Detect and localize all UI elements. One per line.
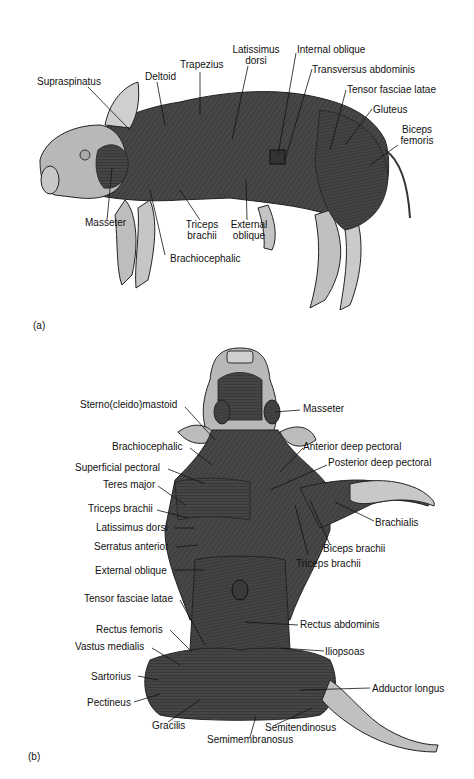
label-a-internal-oblique: Internal oblique	[297, 44, 365, 55]
label-a-tensor-fasciae-latae: Tensor fasciae latae	[347, 84, 436, 95]
label-b-serratus-anterior: Serratus anterior	[94, 541, 168, 552]
label-a-biceps-femoris: Biceps femoris	[396, 124, 438, 146]
label-a-brachiocephalic: Brachiocephalic	[170, 253, 241, 264]
label-b-adductor-longus: Adductor longus	[372, 683, 444, 694]
label-b-anterior-deep-pectoral: Anterior deep pectoral	[303, 441, 401, 452]
label-a-supraspinatus: Supraspinatus	[37, 76, 101, 87]
panel-label-b: (b)	[28, 751, 40, 762]
label-b-gracilis: Gracilis	[152, 720, 185, 731]
label-b-latissimus-dorsi: Latissimus dorsi	[96, 522, 168, 533]
label-b-posterior-deep-pectoral: Posterior deep pectoral	[328, 457, 431, 468]
pig-muscle-diagram: Supraspinatus Deltoid Trapezius Latissim…	[0, 0, 474, 779]
label-a-triceps-brachii: Triceps brachii	[182, 219, 222, 241]
label-b-rectus-femoris: Rectus femoris	[96, 624, 163, 635]
label-b-triceps-brachii-right: Triceps brachii	[296, 558, 361, 569]
label-b-iliopsoas: Iliopsoas	[325, 646, 364, 657]
label-a-transversus-abdominis: Transversus abdominis	[312, 64, 415, 75]
illustration	[0, 0, 474, 779]
label-b-sternocleidomastoid: Sterno(cleido)mastoid	[80, 399, 177, 410]
label-b-sartorius: Sartorius	[91, 671, 131, 682]
panel-label-a: (a)	[33, 320, 45, 331]
label-b-brachialis: Brachialis	[375, 517, 418, 528]
label-b-pectineus: Pectineus	[87, 697, 131, 708]
label-b-biceps-brachii: Biceps brachii	[323, 543, 385, 554]
label-b-superficial-pectoral: Superficial pectoral	[75, 462, 160, 473]
label-a-external-oblique: External oblique	[226, 219, 272, 241]
label-a-masseter: Masseter	[85, 217, 126, 228]
label-a-trapezius: Trapezius	[180, 59, 224, 70]
label-a-gluteus: Gluteus	[373, 104, 407, 115]
label-b-triceps-brachii-left: Triceps brachii	[88, 503, 153, 514]
label-a-deltoid: Deltoid	[145, 71, 176, 82]
label-b-brachiocephalic: Brachiocephalic	[112, 441, 183, 452]
label-b-semitendinosus: Semitendinosus	[265, 722, 336, 733]
label-b-rectus-abdominis: Rectus abdominis	[300, 619, 379, 630]
label-b-vastus-medialis: Vastus medialis	[75, 641, 144, 652]
label-b-semimembranosus: Semimembranosus	[207, 734, 293, 745]
label-b-teres-major: Teres major	[103, 479, 155, 490]
label-b-masseter: Masseter	[303, 403, 344, 414]
label-b-external-oblique: External oblique	[95, 565, 167, 576]
label-a-latissimus-dorsi: Latissimus dorsi	[230, 44, 282, 66]
label-b-tensor-fasciae-latae: Tensor fasciae latae	[84, 593, 173, 604]
